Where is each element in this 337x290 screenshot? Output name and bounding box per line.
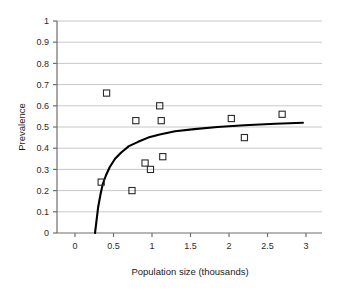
y-axis	[53, 21, 57, 233]
y-tick-label: 0.1	[36, 207, 49, 217]
y-tick-label: 0.2	[36, 186, 49, 196]
x-tick-labels: 00.511.522.53	[72, 241, 308, 251]
x-tick-label: 1	[149, 241, 154, 251]
y-tick-label: 0.6	[36, 101, 49, 111]
x-tick-label: 1.5	[184, 241, 197, 251]
x-tick-label: 2	[226, 241, 231, 251]
data-point-marker	[228, 115, 234, 121]
scatter-plot: 00.10.20.30.40.50.60.70.80.91 00.511.522…	[0, 0, 337, 290]
grid-lines	[57, 21, 322, 212]
y-tick-label: 0.5	[36, 122, 49, 132]
y-tick-label: 0	[44, 228, 49, 238]
data-point-marker	[160, 154, 166, 160]
y-tick-label: 0.8	[36, 59, 49, 69]
x-tick-label: 0	[72, 241, 77, 251]
data-point-marker	[241, 135, 247, 141]
x-tick-label: 2.5	[261, 241, 274, 251]
y-tick-label: 0.7	[36, 80, 49, 90]
x-axis	[57, 233, 322, 237]
data-point-marker	[133, 118, 139, 124]
y-tick-label: 0.9	[36, 37, 49, 47]
x-tick-label: 3	[303, 241, 308, 251]
y-tick-label: 0.3	[36, 165, 49, 175]
y-tick-labels: 00.10.20.30.40.50.60.70.80.91	[36, 16, 49, 238]
fitted-curve	[95, 123, 303, 233]
fitted-curve-path	[95, 123, 303, 233]
x-axis-title: Population size (thousands)	[131, 266, 248, 277]
data-point-marker	[142, 160, 148, 166]
y-axis-title: Prevalence	[16, 103, 27, 151]
chart-figure: 00.10.20.30.40.50.60.70.80.91 00.511.522…	[0, 0, 337, 290]
x-tick-label: 0.5	[107, 241, 120, 251]
data-point-marker	[158, 118, 164, 124]
data-point-marker	[103, 90, 109, 96]
y-tick-label: 0.4	[36, 143, 49, 153]
y-tick-label: 1	[44, 16, 49, 26]
data-point-marker	[279, 111, 285, 117]
